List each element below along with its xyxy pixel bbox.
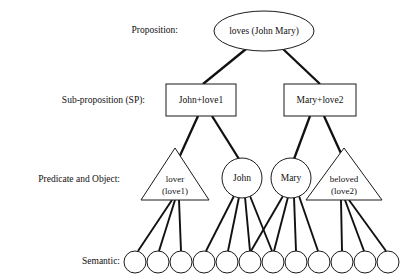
sub-proposition-node-2[interactable]: Mary+love2 [284,84,356,116]
proposition-label: loves (John Mary) [229,26,299,37]
predicate-label-lover-line1: lover [166,174,185,184]
edge-lover-to-sem3 [179,200,181,251]
edge-mary-to-sem7 [274,197,288,251]
figure-canvas: Proposition: Sub-proposition (SP): Predi… [0,0,413,280]
semantic-node-5[interactable] [216,251,238,273]
semantic-node-2[interactable] [147,251,169,273]
edge-sp2-to-mary [294,116,310,159]
edge-beloved-to-sem10 [341,200,342,251]
sub-proposition-label-2: Mary+love2 [296,95,343,105]
edge-john-to-sem6 [245,197,250,251]
semantic-node-4[interactable] [193,251,215,273]
object-label-john: John [233,173,251,183]
object-label-mary: Mary [281,173,302,183]
proposition-node[interactable]: loves (John Mary) [214,11,314,51]
predicate-label-beloved-line1: beloved [330,174,359,184]
row-label-sub-proposition: Sub-proposition (SP): [62,95,145,106]
row-label-proposition: Proposition: [132,25,178,35]
row-label-predicate-and-object: Predicate and Object: [38,174,120,184]
edge-mary-to-sem9 [299,196,318,251]
edge-sp1-to-lover [178,116,198,160]
semantic-node-6[interactable] [239,251,261,273]
predicate-node-lover[interactable]: lover (love1) [141,148,209,200]
semantic-node-8[interactable] [285,251,307,273]
sub-proposition-label-1: John+love1 [179,95,224,105]
edge-mary-to-sem8 [294,197,296,251]
semantic-node-9[interactable] [308,251,330,273]
row-label-semantic: Semantic: [82,256,120,266]
predicate-label-lover-line2: (love1) [162,186,188,196]
semantic-node-3[interactable] [170,251,192,273]
edge-proposition-to-sp1 [203,49,246,84]
semantic-node-11[interactable] [354,251,376,273]
semantic-node-7[interactable] [262,251,284,273]
row-label-layer: Proposition: Sub-proposition (SP): Predi… [38,25,178,266]
predicate-node-beloved[interactable]: beloved (love2) [306,148,382,200]
edge-mary-to-sem6 [251,196,283,251]
object-node-mary[interactable]: Mary [271,158,311,198]
semantic-network-diagram: Proposition: Sub-proposition (SP): Predi… [0,0,413,280]
predicate-label-beloved-line2: (love2) [331,186,357,196]
edge-proposition-to-sp2 [283,49,320,84]
edge-john-to-sem7 [250,196,272,251]
sub-proposition-node-1[interactable]: John+love1 [166,84,236,116]
semantic-node-layer [124,251,399,273]
semantic-node-1[interactable] [124,251,146,273]
edge-sp1-to-john [212,116,239,159]
semantic-node-10[interactable] [331,251,353,273]
semantic-node-12[interactable] [377,251,399,273]
object-node-john[interactable]: John [222,158,262,198]
